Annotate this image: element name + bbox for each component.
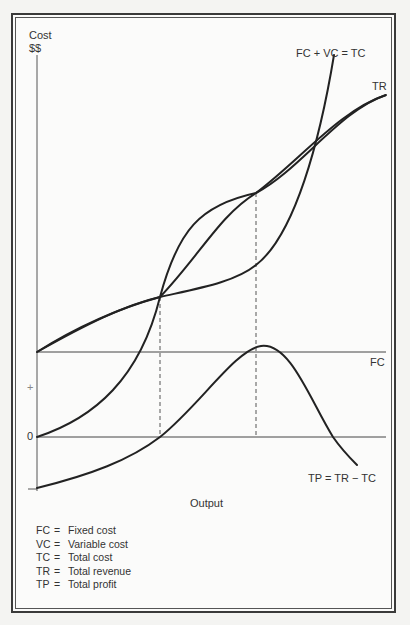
- y-axis-label-cost: Cost: [29, 29, 52, 42]
- plus-sign-label: +: [27, 381, 33, 394]
- legend: FC = Fixed cost VC = Variable cost TC = …: [36, 524, 131, 592]
- legend-meaning: Variable cost: [68, 538, 128, 552]
- legend-abbr: TC: [36, 551, 54, 565]
- legend-row-tc: TC = Total cost: [36, 551, 131, 565]
- tp-curve: [37, 346, 357, 488]
- legend-abbr: VC: [36, 538, 54, 552]
- x-axis-label-output: Output: [190, 497, 223, 510]
- tc-curve-label: FC + VC = TC: [296, 47, 365, 60]
- legend-meaning: Fixed cost: [68, 524, 116, 538]
- legend-equals: =: [54, 538, 68, 552]
- legend-row-fc: FC = Fixed cost: [36, 524, 131, 538]
- legend-equals: =: [54, 551, 68, 565]
- zero-label: 0: [27, 430, 33, 443]
- tp-curve-label: TP = TR − TC: [308, 472, 376, 485]
- tr-curve-label: TR: [372, 80, 387, 93]
- legend-abbr: TP: [36, 578, 54, 592]
- legend-equals: =: [54, 524, 68, 538]
- legend-meaning: Total revenue: [68, 565, 131, 579]
- legend-row-tp: TP = Total profit: [36, 578, 131, 592]
- legend-row-vc: VC = Variable cost: [36, 538, 131, 552]
- legend-meaning: Total cost: [68, 551, 112, 565]
- tc-gentle-curve: [37, 55, 334, 352]
- legend-equals: =: [54, 578, 68, 592]
- legend-row-tr: TR = Total revenue: [36, 565, 131, 579]
- legend-meaning: Total profit: [68, 578, 116, 592]
- legend-abbr: FC: [36, 524, 54, 538]
- legend-equals: =: [54, 565, 68, 579]
- y-axis-label-dollars: $$: [29, 42, 41, 55]
- fc-line-label: FC: [370, 356, 385, 369]
- legend-abbr: TR: [36, 565, 54, 579]
